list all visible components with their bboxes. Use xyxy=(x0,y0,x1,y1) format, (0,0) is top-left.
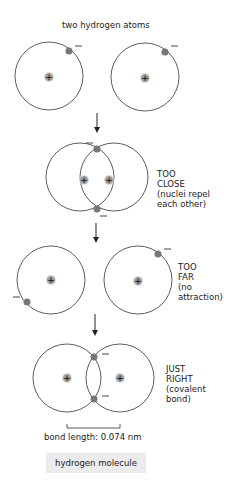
bond-length-label: bond length: 0.074 nm xyxy=(44,432,141,442)
label-too-far: TOO FAR (no attraction) xyxy=(178,262,223,302)
label-line: JUST xyxy=(166,364,206,374)
hydrogen-molecule: + + xyxy=(33,344,154,412)
bond-length-bracket xyxy=(67,424,120,428)
svg-text:+: + xyxy=(63,373,71,383)
caption-hydrogen-molecule: hydrogen molecule xyxy=(46,453,146,473)
svg-text:+: + xyxy=(134,276,142,286)
hydrogen-bond-diagram: + + + + + + xyxy=(0,0,229,481)
label-just-right: JUST RIGHT (covalent bond) xyxy=(166,364,206,404)
label-too-close: TOO CLOSE (nuclei repel each other) xyxy=(157,169,210,209)
svg-text:+: + xyxy=(47,275,55,285)
svg-text:+: + xyxy=(141,73,149,83)
svg-text:+: + xyxy=(116,373,124,383)
svg-text:+: + xyxy=(45,72,53,82)
label-line: (nuclei repel xyxy=(157,189,210,199)
label-line: bond) xyxy=(166,394,206,404)
label-line: TOO xyxy=(178,262,223,272)
label-line: FAR xyxy=(178,272,223,282)
svg-text:+: + xyxy=(105,175,113,185)
atom-right-separate: + xyxy=(111,43,179,111)
atom-right-too-far: + xyxy=(104,246,172,314)
label-line: (covalent xyxy=(166,384,206,394)
label-line: each other) xyxy=(157,199,210,209)
atoms-too-close: + + xyxy=(46,143,148,216)
label-line: attraction) xyxy=(178,292,223,302)
label-line: TOO xyxy=(157,169,210,179)
atom-left-too-far: + xyxy=(13,246,85,314)
label-line: RIGHT xyxy=(166,374,206,384)
atom-left-separate: + xyxy=(15,42,83,110)
svg-text:+: + xyxy=(80,175,88,185)
label-line: (no xyxy=(178,282,223,292)
label-line: CLOSE xyxy=(157,179,210,189)
